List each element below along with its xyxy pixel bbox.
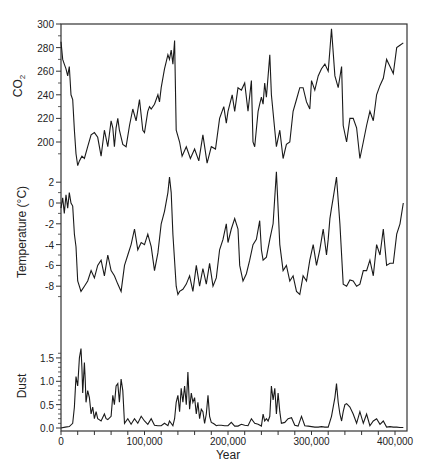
y-tick-label: 0.0	[40, 423, 54, 434]
co2-y-axis: 200220240260280300	[37, 19, 61, 154]
y-tick-label: 1.0	[40, 376, 54, 387]
y-tick-label: -4	[45, 240, 54, 251]
x-tick-label: 200,000	[210, 436, 247, 447]
y-tick-label: 200	[37, 137, 54, 148]
plot-frame	[61, 24, 407, 431]
y-tick-label: 260	[37, 66, 54, 77]
x-axis-label: Year	[216, 448, 240, 462]
y-tick-label: 280	[37, 43, 54, 54]
y-tick-label: 220	[37, 113, 54, 124]
temperature-y-label: Temperature (°C)	[15, 186, 29, 278]
x-tick-label: 0	[58, 436, 64, 447]
x-tick-label: 400,000	[377, 436, 414, 447]
co2-y-label: CO2	[11, 74, 27, 97]
temperature-panel: 20-2-4-6-8 Temperature (°C)	[15, 172, 403, 297]
y-tick-label: -6	[45, 260, 54, 271]
dust-y-axis: 0.00.51.01.5	[40, 353, 61, 434]
y-tick-label: 1.5	[40, 353, 54, 364]
y-tick-label: -8	[45, 281, 54, 292]
x-tick-label: 300,000	[293, 436, 330, 447]
dust-panel: 0.00.51.01.5 Dust	[15, 349, 403, 434]
co2-series-line	[61, 29, 403, 166]
y-tick-label: 2	[48, 177, 54, 188]
dust-y-label: Dust	[15, 373, 29, 398]
ice-core-chart: 200220240260280300 CO2 20-2-4-6-8 Temper…	[0, 0, 425, 475]
temperature-series-line	[61, 172, 403, 295]
temperature-y-axis: 20-2-4-6-8	[45, 177, 61, 296]
co2-panel: 200220240260280300 CO2	[11, 19, 403, 166]
x-axis: 0100,000200,000300,000400,000	[58, 431, 413, 447]
x-tick-label: 100,000	[126, 436, 163, 447]
dust-series-line	[61, 349, 403, 428]
y-tick-label: -2	[45, 219, 54, 230]
y-tick-label: 0	[48, 198, 54, 209]
y-tick-label: 240	[37, 90, 54, 101]
y-tick-label: 0.5	[40, 400, 54, 411]
y-tick-label: 300	[37, 19, 54, 30]
